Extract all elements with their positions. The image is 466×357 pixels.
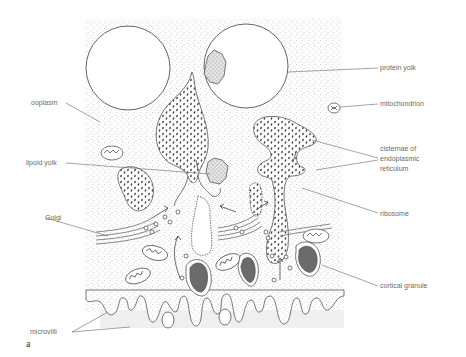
label-lipoid-yolk: lipoid yolk (26, 159, 57, 167)
label-cisternae-2: endoplasmic (380, 155, 419, 163)
label-mitochondrion: mitochondrion (380, 100, 424, 108)
figure-letter: a (26, 338, 30, 349)
label-ribosome: ribosome (380, 210, 409, 218)
label-cisternae-1: cisternae of (380, 145, 416, 153)
label-microvilli: microvilli (30, 328, 57, 336)
label-golgi: Golgi (45, 214, 61, 222)
label-protein-yolk: protein yolk (380, 64, 416, 72)
label-cisternae-3: reticulum (380, 165, 408, 173)
oocyte-diagram (0, 0, 466, 357)
label-ooplasm: ooplasm (31, 99, 57, 107)
protein-yolk-left (86, 26, 170, 110)
label-cortical-granule: cortical granule (380, 282, 427, 290)
